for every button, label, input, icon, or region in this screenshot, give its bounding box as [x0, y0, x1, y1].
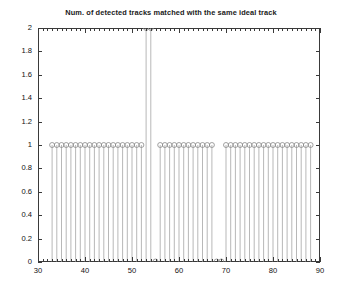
x-tick-mark-top: [104, 28, 105, 31]
x-tick-mark-top: [198, 28, 199, 31]
x-tick-mark-top: [141, 28, 142, 31]
x-tick-mark-major: [179, 257, 180, 262]
x-tick-mark-minor: [160, 259, 161, 262]
y-tick-mark: [38, 51, 42, 52]
x-tick-mark-minor: [127, 259, 128, 262]
y-tick-mark: [38, 215, 42, 216]
x-tick-mark-minor: [217, 259, 218, 262]
x-tick-mark-top: [221, 28, 222, 31]
x-tick-mark-minor: [170, 259, 171, 262]
y-tick-mark: [38, 145, 42, 146]
y-tick-mark-right: [316, 75, 320, 76]
x-tick-mark-minor: [245, 259, 246, 262]
x-tick-mark-minor: [231, 259, 232, 262]
y-tick-mark: [38, 192, 42, 193]
x-tick-mark-minor: [240, 259, 241, 262]
x-tick-mark-minor: [113, 259, 114, 262]
x-tick-mark-top: [231, 28, 232, 31]
y-tick-mark-right: [316, 215, 320, 216]
x-tick-mark-minor: [174, 259, 175, 262]
x-tick-mark-top: [160, 28, 161, 31]
x-tick-mark-minor: [268, 259, 269, 262]
y-tick-mark: [38, 239, 42, 240]
x-tick-mark-minor: [146, 259, 147, 262]
x-tick-mark-top: [264, 28, 265, 31]
x-tick-mark-top: [137, 28, 138, 31]
x-tick-mark-top: [203, 28, 204, 31]
y-tick-mark-right: [316, 51, 320, 52]
x-tick-mark-minor: [151, 259, 152, 262]
y-tick-label: 0: [2, 257, 32, 266]
x-tick-mark-top: [212, 28, 213, 31]
x-tick-mark-minor: [301, 259, 302, 262]
x-tick-mark-top: [156, 28, 157, 31]
x-tick-mark-minor: [221, 259, 222, 262]
x-tick-mark-minor: [198, 259, 199, 262]
x-tick-mark-top: [273, 28, 274, 33]
x-tick-mark-top: [52, 28, 53, 31]
x-tick-mark-minor: [109, 259, 110, 262]
x-tick-mark-top: [170, 28, 171, 31]
y-tick-label: 0.2: [2, 234, 32, 243]
x-tick-mark-major: [85, 257, 86, 262]
x-tick-mark-top: [123, 28, 124, 31]
y-tick-label: 1.4: [2, 93, 32, 102]
y-tick-mark-right: [316, 145, 320, 146]
x-tick-mark-top: [226, 28, 227, 33]
y-tick-mark-right: [316, 192, 320, 193]
y-tick-label: 1.6: [2, 70, 32, 79]
x-tick-mark-minor: [71, 259, 72, 262]
x-tick-label: 60: [164, 266, 194, 275]
y-tick-mark-right: [316, 168, 320, 169]
x-tick-mark-minor: [123, 259, 124, 262]
x-tick-mark-top: [184, 28, 185, 31]
x-tick-mark-top: [47, 28, 48, 31]
y-tick-label: 0.6: [2, 187, 32, 196]
stem-series-svg: [38, 28, 320, 262]
x-tick-mark-top: [250, 28, 251, 31]
x-tick-label: 70: [211, 266, 241, 275]
x-tick-mark-minor: [80, 259, 81, 262]
x-tick-mark-minor: [43, 259, 44, 262]
x-tick-mark-top: [240, 28, 241, 31]
plot-canvas: [38, 28, 320, 262]
x-tick-label: 80: [258, 266, 288, 275]
x-tick-mark-top: [268, 28, 269, 31]
x-tick-mark-minor: [264, 259, 265, 262]
x-tick-mark-top: [301, 28, 302, 31]
x-tick-mark-top: [287, 28, 288, 31]
x-tick-mark-minor: [315, 259, 316, 262]
x-tick-mark-top: [127, 28, 128, 31]
x-tick-mark-minor: [184, 259, 185, 262]
y-tick-mark: [38, 75, 42, 76]
x-tick-mark-top: [311, 28, 312, 31]
x-tick-mark-minor: [99, 259, 100, 262]
x-tick-label: 40: [70, 266, 100, 275]
x-tick-mark-top: [132, 28, 133, 33]
x-tick-mark-top: [113, 28, 114, 31]
x-tick-mark-minor: [292, 259, 293, 262]
x-tick-mark-minor: [287, 259, 288, 262]
figure-stem-plot: Num. of detected tracks matched with the…: [0, 0, 342, 290]
x-tick-label: 50: [117, 266, 147, 275]
x-tick-mark-top: [90, 28, 91, 31]
x-tick-mark-top: [320, 28, 321, 33]
x-tick-mark-minor: [57, 259, 58, 262]
x-tick-mark-major: [132, 257, 133, 262]
x-tick-mark-top: [57, 28, 58, 31]
y-tick-mark: [38, 122, 42, 123]
x-tick-mark-minor: [118, 259, 119, 262]
x-tick-mark-minor: [254, 259, 255, 262]
y-tick-mark-right: [316, 262, 320, 263]
x-tick-mark-top: [66, 28, 67, 31]
x-tick-mark-top: [43, 28, 44, 31]
y-tick-mark-right: [316, 98, 320, 99]
x-tick-mark-top: [235, 28, 236, 31]
x-tick-mark-minor: [306, 259, 307, 262]
y-tick-mark-right: [316, 239, 320, 240]
x-tick-mark-minor: [47, 259, 48, 262]
x-tick-mark-top: [165, 28, 166, 31]
x-tick-mark-top: [62, 28, 63, 31]
x-tick-mark-top: [259, 28, 260, 31]
x-tick-mark-minor: [165, 259, 166, 262]
